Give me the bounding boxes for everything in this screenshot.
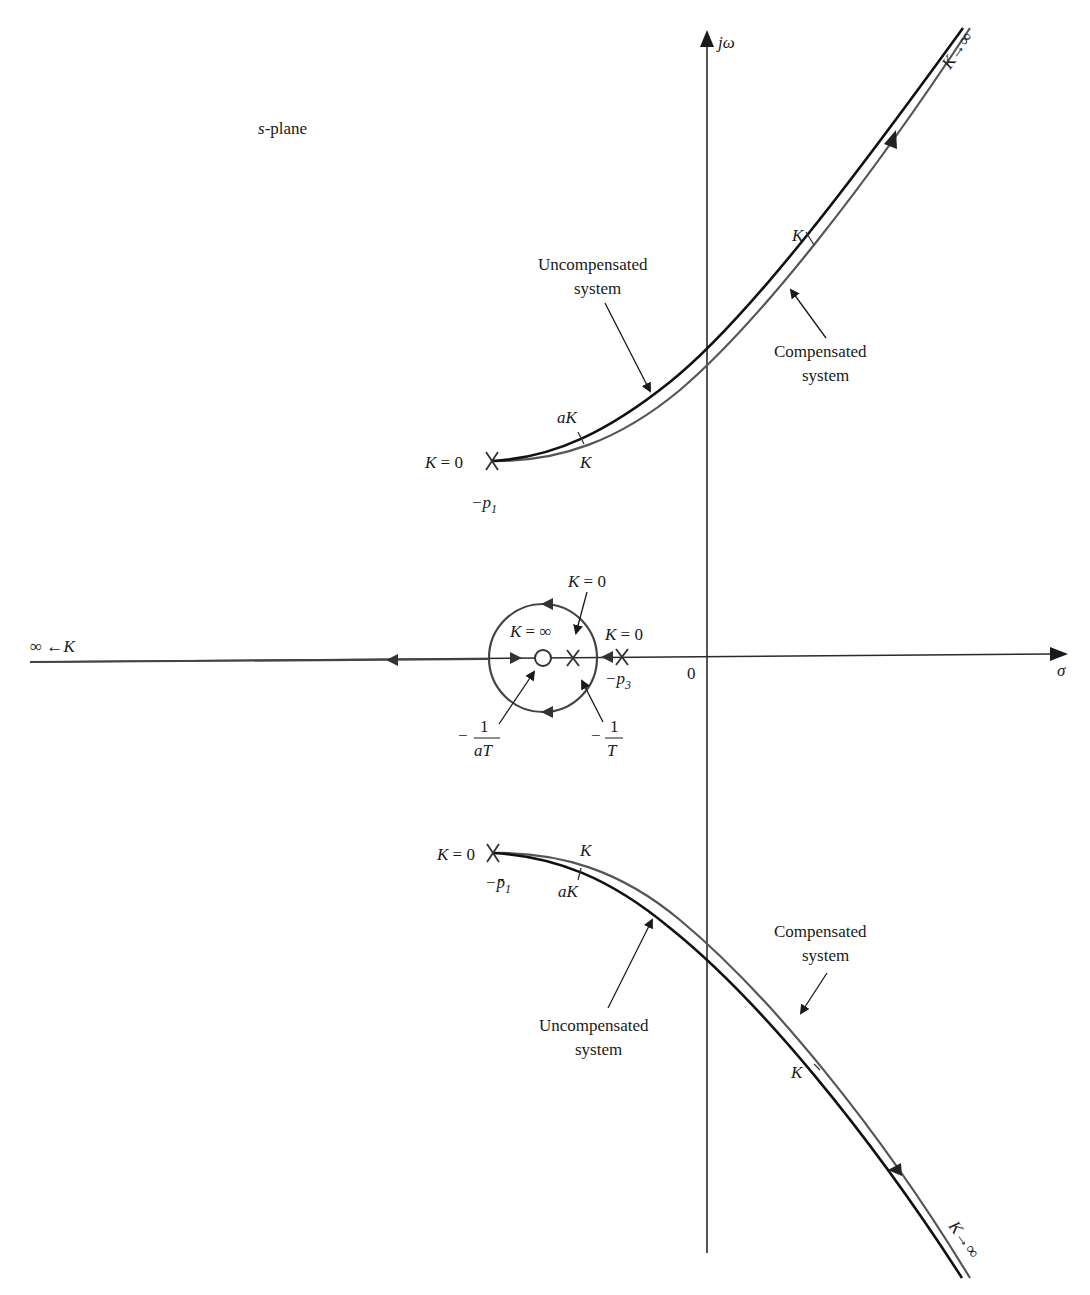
- upper-uncompensated-label-2: system: [574, 279, 621, 298]
- upper-compensated-locus: [492, 28, 970, 461]
- right-arrow-into-zero-icon: [510, 652, 522, 664]
- lower-branch: K = 0 −p̄1 K aK K K→∞ Uncompensated syst…: [436, 841, 983, 1278]
- zero-label-minus: −: [458, 726, 468, 745]
- upper-branch: K = 0 −p1 aK K K K→∞ Uncompensated syste…: [424, 28, 976, 516]
- upper-compensated-label: Compensated: [774, 342, 867, 361]
- upper-pole-label: −p1: [471, 493, 497, 516]
- circle-bottom-arrow-icon: [541, 706, 553, 718]
- root-locus-diagram: s-plane jω σ 0 ∞ ←K: [0, 0, 1090, 1295]
- upper-uncompensated-label: Uncompensated: [538, 255, 648, 274]
- lower-end-label: K→∞: [944, 1217, 983, 1262]
- lower-compensated-label: Compensated: [774, 922, 867, 941]
- imaginary-axis-label: jω: [716, 33, 735, 52]
- upper-start-gain-label: K = 0: [424, 453, 463, 472]
- zero-label-numerator: 1: [480, 717, 489, 736]
- zero-gain-label: K = ∞: [509, 622, 552, 641]
- lower-compensated-label-2: system: [802, 946, 849, 965]
- comp-pole-label-minus: −: [591, 726, 601, 745]
- lower-start-gain-label: K = 0: [436, 845, 475, 864]
- comp-pole-label-denominator: T: [607, 741, 618, 760]
- upper-end-label: K→∞: [937, 28, 976, 73]
- upper-compensated-label-2: system: [802, 366, 849, 385]
- compensator-circle-locus: K = ∞ K = 0 K = 0 −p3 − 1 aT − 1 T: [458, 572, 643, 760]
- pole3-label: −p3: [605, 669, 631, 692]
- origin-label: 0: [687, 664, 696, 683]
- upper-ak-label: aK: [557, 408, 579, 427]
- circle-top-arrow-icon: [541, 598, 553, 610]
- comp-pole-label-numerator: 1: [610, 717, 619, 736]
- real-axis-arrow-icon: [1050, 647, 1068, 661]
- compensator-zero-icon: [535, 650, 551, 666]
- left-arrow-icon: [386, 654, 398, 666]
- imaginary-axis-arrow-icon: [700, 30, 714, 47]
- real-axis-label: σ: [1057, 661, 1066, 680]
- lower-compensated-locus: [492, 853, 970, 1278]
- lower-k-label-low: K: [579, 841, 593, 860]
- real-axis-locus: ∞ ←K: [30, 637, 613, 666]
- upper-k-label-high: K: [791, 226, 805, 245]
- zero-label-denominator: aT: [474, 741, 494, 760]
- lower-ak-label: aK: [558, 882, 580, 901]
- compensator-pole-gain-label: K = 0: [567, 572, 606, 591]
- lower-pole-label: −p̄1: [485, 873, 511, 896]
- left-end-label: ∞ ←K: [30, 637, 76, 656]
- pole3-gain-label: K = 0: [604, 625, 643, 644]
- lower-k-label-high: K: [790, 1063, 804, 1082]
- arrow-from-p3-icon: [601, 651, 613, 663]
- lower-uncompensated-label: Uncompensated: [539, 1016, 649, 1035]
- upper-uncompensated-locus: [492, 28, 963, 461]
- lower-uncompensated-locus: [492, 853, 962, 1278]
- upper-k-label-low: K: [579, 453, 593, 472]
- lower-uncompensated-label-2: system: [575, 1040, 622, 1059]
- s-plane-label: s-plane: [258, 119, 307, 138]
- imaginary-axis: jω: [700, 30, 735, 1253]
